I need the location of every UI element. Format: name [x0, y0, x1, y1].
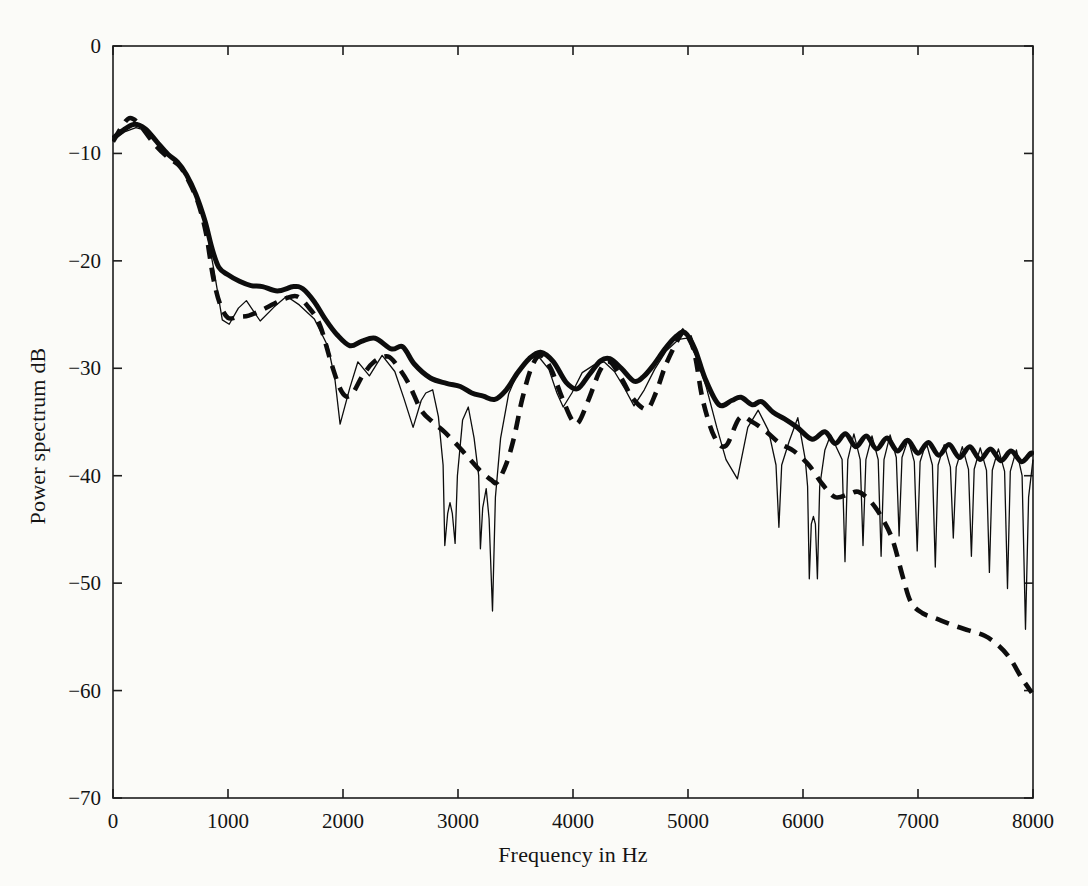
x-tick-label: 1000: [207, 809, 249, 833]
x-tick-label: 7000: [897, 809, 939, 833]
x-tick-label: 2000: [322, 809, 364, 833]
x-tick-label: 0: [108, 809, 119, 833]
dashed-series-path: [113, 118, 1032, 693]
y-tick-label: −60: [68, 679, 101, 703]
y-tick-label: −40: [68, 464, 101, 488]
x-tick-label: 8000: [1012, 809, 1054, 833]
x-axis-title: Frequency in Hz: [0, 842, 1088, 868]
x-tick-label: 4000: [552, 809, 594, 833]
y-tick-label: −10: [68, 141, 101, 165]
power-spectrum-chart: 0100020003000400050006000700080000−10−20…: [0, 0, 1088, 886]
y-tick-label: −20: [68, 249, 101, 273]
thick-solid-series-path: [113, 124, 1033, 461]
power-spectrum-figure: 0100020003000400050006000700080000−10−20…: [0, 0, 1088, 886]
x-tick-label: 5000: [667, 809, 709, 833]
plot-border: [113, 46, 1033, 798]
y-tick-label: −70: [68, 786, 101, 810]
x-tick-label: 6000: [782, 809, 824, 833]
y-axis-title: Power spectrum dB: [25, 336, 51, 536]
y-tick-label: −50: [68, 571, 101, 595]
y-tick-label: 0: [91, 34, 102, 58]
x-tick-label: 3000: [437, 809, 479, 833]
y-tick-label: −30: [68, 356, 101, 380]
